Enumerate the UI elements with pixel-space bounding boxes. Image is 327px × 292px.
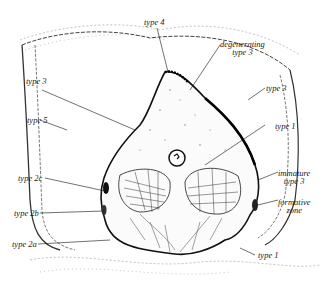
- label-type-2b: type 2b: [14, 209, 39, 217]
- label-type-1-right: type 1: [275, 122, 296, 130]
- label-degenerating: degenerating type 3: [220, 40, 265, 56]
- label-type-5: type 5: [27, 116, 48, 124]
- label-immature-line2: type 3: [278, 177, 310, 185]
- label-type-3-left: type 3: [26, 77, 47, 85]
- label-formative-line2: zone: [278, 206, 311, 214]
- cell-type-2c: [103, 182, 109, 194]
- label-type-4: type 4: [144, 18, 165, 26]
- label-type-3-right: type 3: [266, 84, 287, 92]
- label-type-2c: type 2c: [18, 174, 42, 182]
- label-degenerating-line2: type 3: [220, 48, 265, 56]
- label-immature: immature type 3: [278, 169, 310, 185]
- label-type-1-bottom: type 1: [258, 251, 279, 259]
- taste-pore: [169, 150, 185, 166]
- trench-wall-right: [265, 70, 298, 245]
- figure-canvas: type 4 degenerating type 3 type 3 type 5…: [0, 0, 327, 292]
- label-type-2a: type 2a: [12, 240, 37, 248]
- label-formative: formative zone: [278, 198, 311, 214]
- cell-formative-zone: [252, 199, 258, 211]
- papilla-illustration: [0, 0, 327, 292]
- cell-type-2b: [102, 205, 107, 215]
